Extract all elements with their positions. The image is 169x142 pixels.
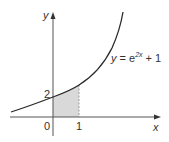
x-axis-label: x <box>153 122 159 133</box>
y-intercept-label: 2 <box>44 89 50 100</box>
y-axis-label: y <box>43 10 49 21</box>
graph-figure: y x 0 1 2 y = e2x + 1 <box>0 0 169 142</box>
y-axis-arrow-icon <box>51 12 56 19</box>
origin-label: 0 <box>44 121 50 132</box>
graph-svg <box>0 0 169 142</box>
shaded-area <box>53 85 79 117</box>
curve-eq-base: = e <box>117 52 136 64</box>
x-tick-1-label: 1 <box>76 121 82 132</box>
curve-equation: y = e2x + 1 <box>111 51 161 64</box>
curve-eq-tail: + 1 <box>143 52 162 64</box>
x-axis-arrow-icon <box>154 115 161 120</box>
curve-eq-exponent: 2x <box>135 51 142 58</box>
